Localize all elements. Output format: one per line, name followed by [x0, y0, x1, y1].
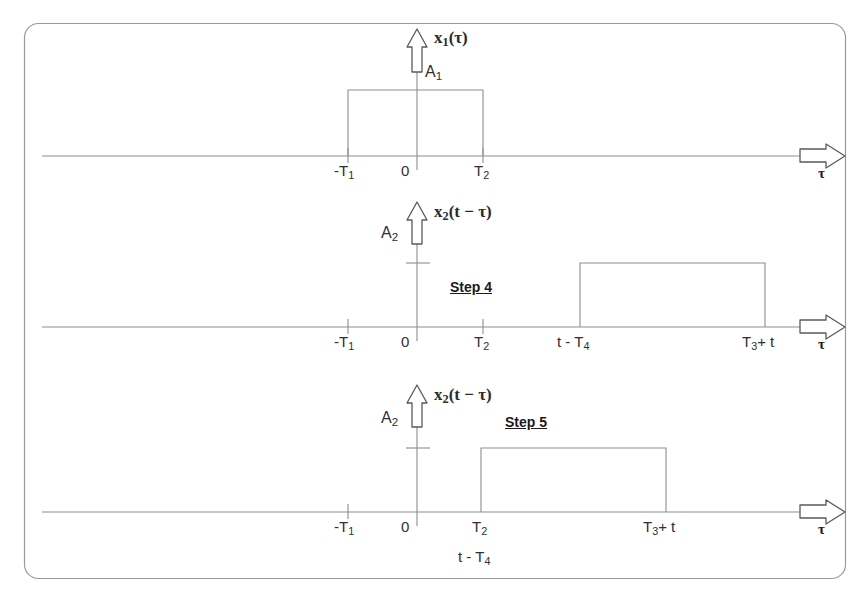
panel-2-tick-label-t-minus-T4: t - T4 [557, 334, 589, 352]
panel-3-tick-label-negT1: -T1 [334, 519, 354, 537]
panel-1-graph [42, 29, 845, 170]
panel-1-tick-label-T2: T2 [474, 163, 489, 181]
panel-2-tick-label-negT1: -T1 [334, 334, 354, 352]
panel-2-tick-label-T2: T2 [474, 334, 489, 352]
panel-1-tick-label-negT1: -T1 [334, 163, 354, 181]
panel-3-y-arrow-icon [407, 385, 427, 427]
panel-3-below-axis-label: t - T4 [458, 549, 490, 567]
panel-2-signal-label: x2(t − τ) [434, 203, 492, 223]
panel-1-tick-label-zero: 0 [401, 163, 409, 178]
panel-3-axis-arrow-label: τ [818, 522, 825, 537]
convolution-figure [0, 0, 868, 599]
panel-3-signal-label: x2(t − τ) [434, 386, 492, 406]
panel-3-tick-label-zero: 0 [401, 519, 409, 534]
panel-2-tick-label-T3-plus-t: T3+ t [742, 334, 774, 352]
panel-2-axis-arrow-label: τ [818, 337, 825, 352]
panel-1-axis-arrow-label: τ [818, 166, 825, 181]
panel-1-signal-label: x1(τ) [434, 29, 468, 49]
panel-1-y-arrow-icon [407, 29, 427, 72]
panel-2-y-arrow-icon [407, 202, 427, 244]
panel-2-step-label: Step 4 [450, 280, 492, 294]
panel-3-step-label: Step 5 [505, 415, 547, 429]
figure-root: x1(τ) A1 -T1 0 T2 τ x2(t − τ) A2 Step 4 … [0, 0, 868, 599]
panel-3-amplitude-label: A2 [381, 410, 398, 429]
panel-2-amplitude-label: A2 [381, 225, 398, 244]
panel-2-tick-label-zero: 0 [401, 334, 409, 349]
panel-1-pulse [348, 90, 483, 156]
panel-3-tick-label-T3-plus-t: T3+ t [643, 519, 675, 537]
panel-3-pulse [481, 448, 666, 512]
panel-1-amplitude-label: A1 [425, 64, 442, 83]
panel-2-pulse [580, 263, 765, 327]
figure-border [25, 24, 846, 579]
panel-3-tick-label-T2: T2 [472, 519, 487, 537]
